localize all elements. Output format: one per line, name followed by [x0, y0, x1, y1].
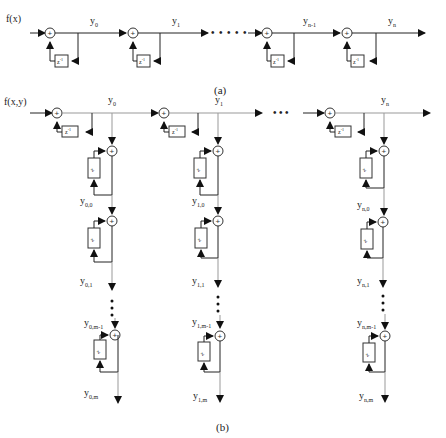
- svg-text:yn: yn: [381, 94, 389, 107]
- diagram-canvas: f(x) + z-1 y0 + z-1 y1 • • • • •: [0, 0, 446, 438]
- column-n: + z yn,0 + z yn,1 yn,m-1 + z yn,m: [357, 113, 390, 403]
- svg-text:+: +: [216, 147, 221, 156]
- svg-text:y1,1: y1,1: [192, 275, 205, 288]
- svg-text:+: +: [113, 331, 118, 340]
- svg-text:yn,0: yn,0: [357, 199, 370, 212]
- svg-text:y1,m-1: y1,m-1: [192, 316, 211, 329]
- column-0: + z y0,0 + z y0,1 y0,m-1 + z y0,m: [80, 113, 120, 403]
- svg-text:yn: yn: [388, 15, 396, 28]
- svg-text:+: +: [48, 29, 53, 38]
- svg-text:+: +: [383, 332, 388, 341]
- svg-text:+: +: [55, 109, 60, 118]
- svg-text:y1,m: y1,m: [193, 390, 208, 403]
- stage-a-n: + z-1 yn: [342, 15, 425, 67]
- svg-text:+: +: [110, 217, 115, 226]
- stage-a-0: + z-1 y0: [30, 15, 126, 67]
- svg-text:yn,m: yn,m: [359, 390, 374, 403]
- svg-text:+: +: [218, 332, 223, 341]
- svg-text:yn,1: yn,1: [357, 275, 370, 288]
- svg-text:+: +: [345, 29, 350, 38]
- caption-b: (b): [216, 421, 229, 434]
- svg-text:+: +: [265, 29, 270, 38]
- svg-text:+: +: [382, 147, 387, 156]
- stage-a-1: + z-1 y1: [128, 15, 208, 67]
- input-label-fx: f(x): [6, 13, 21, 25]
- svg-text:yn,m-1: yn,m-1: [357, 317, 376, 330]
- svg-text:yn-1: yn-1: [303, 15, 316, 28]
- input-label-fxy: f(x,y): [4, 96, 27, 108]
- ellipsis: • • • • •: [211, 27, 248, 38]
- svg-text:+: +: [131, 29, 136, 38]
- svg-text:y0,1: y0,1: [80, 275, 93, 288]
- svg-text:+: +: [328, 109, 333, 118]
- column-1: + z y1,0 + z y1,1 y1,m-1 + z y1,m: [192, 113, 225, 403]
- svg-text:y0,m-1: y0,m-1: [84, 317, 103, 330]
- svg-text:y0,0: y0,0: [80, 195, 93, 208]
- stage-a-n-1: + z-1 yn-1: [248, 15, 340, 67]
- svg-text:y0,m: y0,m: [84, 387, 99, 400]
- part-a-chain: f(x) + z-1 y0 + z-1 y1 • • • • •: [6, 13, 425, 97]
- svg-text:+: +: [216, 217, 221, 226]
- svg-text:y1: y1: [172, 15, 180, 28]
- ellipsis-b: • • •: [273, 107, 289, 118]
- svg-text:y0: y0: [108, 94, 116, 107]
- svg-text:+: +: [110, 147, 115, 156]
- svg-text:y1,0: y1,0: [192, 195, 205, 208]
- svg-text:+: +: [381, 218, 386, 227]
- output-label: y0: [90, 15, 98, 28]
- part-b-grid: f(x,y) + z-1 y0 + z-1 y1 • • • + z-1 yn …: [4, 94, 430, 434]
- svg-text:+: +: [162, 109, 167, 118]
